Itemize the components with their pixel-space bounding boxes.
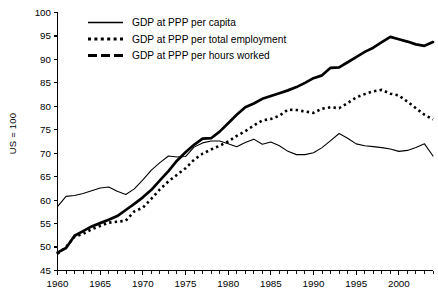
y-tick-label: 100 xyxy=(35,7,52,18)
x-tick-label: 1980 xyxy=(217,278,239,289)
series-line xyxy=(58,134,434,207)
chart-container: US = 100 4550556065707580859095100 19601… xyxy=(0,0,438,301)
y-tick-label: 90 xyxy=(40,54,51,65)
x-tick-label: 1990 xyxy=(303,278,325,289)
y-tick-label: 65 xyxy=(40,171,51,182)
series-line xyxy=(58,37,434,253)
y-tick-label: 60 xyxy=(40,195,51,206)
series-line xyxy=(58,90,434,254)
chart-legend: GDP at PPP per capitaGDP at PPP per tota… xyxy=(88,17,286,61)
x-tick-label: 1960 xyxy=(47,278,69,289)
y-tick-label: 95 xyxy=(40,30,51,41)
x-tick-label: 1970 xyxy=(132,278,154,289)
y-tick-label: 70 xyxy=(40,148,51,159)
legend-label: GDP at PPP per capita xyxy=(132,17,236,28)
x-tick-label: 1985 xyxy=(260,278,282,289)
x-tick-label: 1975 xyxy=(175,278,197,289)
x-tick-label: 2000 xyxy=(388,278,410,289)
y-tick-label: 50 xyxy=(40,241,51,252)
y-axis: 4550556065707580859095100 xyxy=(35,7,58,276)
y-tick-label: 55 xyxy=(40,218,51,229)
x-tick-label: 1965 xyxy=(89,278,111,289)
legend-label: GDP at PPP per hours worked xyxy=(132,50,270,61)
y-tick-label: 45 xyxy=(40,265,51,276)
y-tick-label: 85 xyxy=(40,77,51,88)
chart-plot-area: 4550556065707580859095100 19601965197019… xyxy=(0,0,438,301)
data-series-group xyxy=(58,37,434,254)
y-tick-label: 80 xyxy=(40,101,51,112)
x-tick-label: 1995 xyxy=(345,278,367,289)
x-axis: 196019651970197519801985199019952000 xyxy=(47,271,433,289)
y-tick-label: 75 xyxy=(40,124,51,135)
legend-label: GDP at PPP per total employment xyxy=(132,34,286,45)
